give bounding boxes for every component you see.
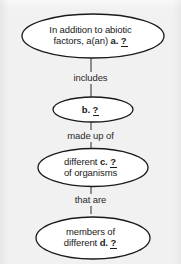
node-b-blank: b. ? bbox=[82, 104, 100, 116]
node-d-line-1: members of bbox=[0, 226, 181, 237]
node-c-blank-mark: ? bbox=[110, 156, 117, 168]
node-c-blank-label: c. bbox=[100, 156, 108, 167]
node-c-line-1: different c. ? bbox=[0, 156, 181, 167]
node-d-line-2: different d. ? bbox=[0, 237, 181, 248]
node-b-blank-mark: ? bbox=[93, 104, 100, 116]
node-c-line-2: of organisms bbox=[0, 167, 181, 178]
edge-label-includes: includes bbox=[0, 72, 181, 83]
node-a-text: In addition to abiotic factors, a(an) a.… bbox=[0, 24, 181, 47]
node-b-text: b. ? bbox=[0, 104, 181, 115]
edge-label-made-up-of: made up of bbox=[0, 130, 181, 141]
node-a-line-2: factors, a(an) a. ? bbox=[0, 35, 181, 46]
node-a-line-2-prefix: factors, a(an) bbox=[53, 35, 110, 46]
node-a-blank: a. ? bbox=[111, 35, 128, 47]
node-d-line-2-prefix: different bbox=[64, 237, 100, 248]
node-c-line-1-prefix: different bbox=[64, 156, 100, 167]
node-b-line-1: b. ? bbox=[0, 104, 181, 115]
flowchart-diagram: In addition to abiotic factors, a(an) a.… bbox=[0, 0, 181, 264]
node-a-blank-label: a. bbox=[111, 35, 119, 46]
node-c-text: different c. ? of organisms bbox=[0, 156, 181, 179]
node-d-text: members of different d. ? bbox=[0, 226, 181, 249]
node-b-blank-label: b. bbox=[82, 104, 90, 115]
node-a-line-1: In addition to abiotic bbox=[0, 24, 181, 35]
edge-label-that-are: that are bbox=[0, 194, 181, 205]
node-a-blank-mark: ? bbox=[121, 35, 128, 47]
node-d-blank: d. ? bbox=[100, 237, 118, 249]
node-d-blank-mark: ? bbox=[110, 237, 117, 249]
node-c-blank: c. ? bbox=[100, 156, 117, 168]
node-d-blank-label: d. bbox=[100, 237, 108, 248]
